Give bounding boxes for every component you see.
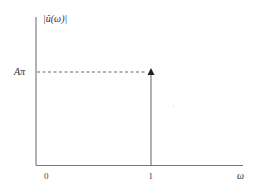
y-tick-label: Aπ bbox=[14, 67, 25, 77]
x-tick-label-1: 1 bbox=[149, 172, 154, 181]
y-axis-label: |û(ω)| bbox=[43, 14, 67, 24]
impulse-arrow-head-icon bbox=[148, 68, 155, 75]
chart-canvas bbox=[0, 0, 256, 185]
x-tick-label-0: 0 bbox=[44, 172, 49, 181]
x-axis-label: ω bbox=[237, 171, 244, 181]
stray-dot bbox=[173, 105, 174, 106]
